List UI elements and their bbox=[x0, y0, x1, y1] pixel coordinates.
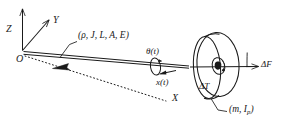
origin-label: O bbox=[16, 54, 23, 64]
z-axis-label: Z bbox=[6, 24, 12, 34]
shaft-parameters-label: (ρ, J, L, A, E) bbox=[78, 31, 129, 41]
force-label: ΔF bbox=[261, 60, 272, 69]
disk-properties-tail: ) bbox=[250, 104, 253, 114]
shaft-lower-edge bbox=[24, 54, 190, 68]
x-axis-dotted-line bbox=[25, 56, 166, 101]
theta-rotation-indicator bbox=[149, 57, 161, 75]
disk-properties-label: (m, Ip) bbox=[229, 105, 254, 115]
torque-indicator bbox=[210, 56, 226, 75]
y-axis-line bbox=[23, 20, 50, 51]
disk-properties-leader bbox=[211, 99, 227, 112]
shaft-upper-edge bbox=[24, 52, 190, 67]
torque-label: ΔT bbox=[199, 82, 209, 91]
x-displacement-label: x(t) bbox=[156, 78, 169, 87]
coordinate-axes bbox=[23, 9, 50, 51]
disk-properties-head: (m, I bbox=[229, 104, 247, 114]
x-axis-label: X bbox=[172, 93, 178, 103]
theta-label: θ(t) bbox=[146, 47, 159, 56]
engineering-diagram: Z Y O X (ρ, J, L, A, E) θ(t) x(t) ΔT ΔF … bbox=[0, 0, 284, 127]
y-axis-label: Y bbox=[53, 15, 59, 25]
shaft-body bbox=[24, 52, 190, 71]
axial-displacement-arrow bbox=[159, 71, 176, 75]
